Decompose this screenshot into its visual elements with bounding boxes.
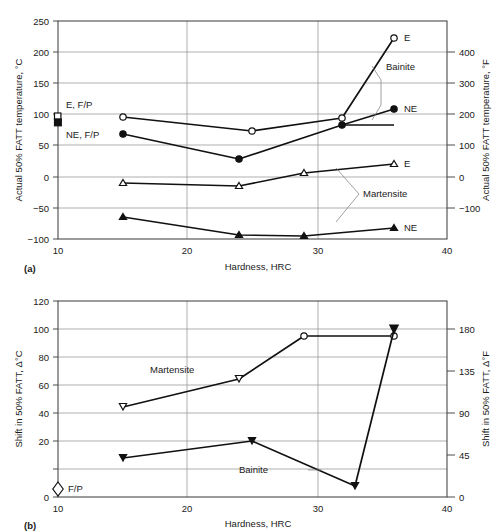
chart-b-x-axis-title: Hardness, HRC [225, 518, 292, 529]
reference-label-fp: F/P [68, 483, 83, 494]
chart-b-y2tick-135: 135 [459, 366, 475, 377]
chart-a-y-axis-title: Actual 50% FATT temperature, °C [13, 58, 24, 201]
chart-a-series-martensite-ne: NE [119, 214, 417, 239]
series-label-martensite-ne: NE [404, 222, 417, 233]
chart-a-left-ticks [53, 21, 58, 239]
chart-a-ytick-0: 0 [44, 172, 49, 183]
reference-label-e-fp: E, F/P [66, 99, 92, 110]
data-point-marker [339, 115, 345, 121]
chart-b-series-bainite: Bainite [119, 325, 398, 489]
series-label-bainite-ne: NE [404, 103, 417, 114]
chart-a-xtick-10: 10 [53, 245, 64, 256]
panel-label-b: (b) [24, 520, 36, 531]
chart-a-y2tick-400: 400 [459, 47, 475, 58]
series-label-bainite-e: E [404, 32, 410, 43]
chart-b-svg: 120 100 80 60 40 20 0 Shift in 50% FATT,… [0, 280, 494, 532]
chart-a-right-ticks [447, 52, 455, 208]
chart-a-y2tick-300: 300 [459, 78, 475, 89]
data-point-marker [301, 333, 307, 339]
data-point-marker [120, 131, 126, 137]
chart-a-ytick-neg50: −50 [33, 203, 49, 214]
chart-a-y2tick-100: 100 [459, 140, 475, 151]
chart-b-y-axis-title: Shift in 50% FATT, Δ°C [13, 350, 24, 447]
chart-b-xtick-40: 40 [442, 503, 453, 514]
chart-b-x-tick-labels: 10 20 30 40 [53, 503, 453, 514]
chart-b-left-tick-labels: 120 100 80 60 40 20 0 [33, 296, 49, 503]
annotation-label-bainite-b: Bainite [239, 464, 268, 475]
chart-a-y2tick-neg100: −100 [459, 203, 480, 214]
chart-a-x-tick-labels: 10 20 30 40 [53, 245, 453, 256]
chart-b-ytick-20: 20 [38, 436, 49, 447]
chart-b-ytick-0: 0 [44, 492, 49, 503]
chart-b-ytick-80: 80 [38, 352, 49, 363]
data-point-marker [391, 35, 397, 41]
chart-b-right-tick-labels: 180 135 90 45 0 [459, 324, 475, 503]
chart-b-ytick-60: 60 [38, 380, 49, 391]
annotation-label-bainite: Bainite [386, 61, 415, 72]
chart-a-series-bainite-ne: NE [120, 103, 417, 162]
chart-a-ytick-250: 250 [33, 16, 49, 27]
chart-b-ytick-40: 40 [38, 408, 49, 419]
annotation-label-martensite: Martensite [363, 188, 407, 199]
chart-a-reference-point-ne-fp: NE, F/P [55, 119, 100, 140]
series-label-martensite-e: E [404, 158, 410, 169]
data-point-marker [119, 214, 126, 220]
reference-label-ne-fp: NE, F/P [66, 129, 99, 140]
chart-b-ytick-120: 120 [33, 296, 49, 307]
chart-a-x-axis-title: Hardness, HRC [225, 261, 292, 272]
chart-panel-a: 250 200 150 100 50 0 −50 −100 Actual 50%… [0, 0, 494, 280]
chart-a-xtick-40: 40 [442, 245, 453, 256]
chart-a-left-tick-labels: 250 200 150 100 50 0 −50 −100 [28, 16, 49, 245]
chart-a-ytick-100: 100 [33, 109, 49, 120]
chart-a-xtick-30: 30 [313, 245, 324, 256]
annotation-label-martensite-b: Martensite [150, 364, 194, 375]
data-point-marker [120, 114, 126, 120]
chart-a-right-tick-labels: 400 300 200 100 0 −100 [459, 47, 480, 214]
data-point-marker [339, 122, 345, 128]
chart-a-y2tick-200: 200 [459, 109, 475, 120]
chart-b-xtick-20: 20 [182, 503, 193, 514]
chart-b-reference-point-fp: F/P [53, 482, 83, 496]
chart-b-xtick-10: 10 [53, 503, 64, 514]
chart-a-xtick-20: 20 [182, 245, 193, 256]
chart-b-series-martensite: Martensite [119, 333, 397, 410]
chart-b-y2tick-0: 0 [459, 492, 464, 503]
chart-a-series-martensite-e: E [119, 158, 410, 189]
chart-a-y2-axis-title: Actual 50% FATT temperature, °F [480, 59, 491, 201]
panel-label-a: (a) [24, 263, 36, 274]
chart-a-ytick-200: 200 [33, 47, 49, 58]
chart-a-ytick-neg100: −100 [28, 234, 49, 245]
chart-b-y2tick-180: 180 [459, 324, 475, 335]
data-point-marker [236, 156, 242, 162]
chart-a-svg: 250 200 150 100 50 0 −50 −100 Actual 50%… [0, 0, 494, 280]
data-point-marker [249, 128, 255, 134]
chart-b-y2-axis-title: Shift in 50% FATT, Δ°F [480, 351, 491, 447]
chart-b-xtick-30: 30 [313, 503, 324, 514]
chart-b-right-ticks [447, 329, 455, 497]
data-point-marker [53, 482, 63, 496]
chart-panel-b: 120 100 80 60 40 20 0 Shift in 50% FATT,… [0, 280, 494, 532]
chart-a-ytick-50: 50 [38, 140, 49, 151]
chart-b-y2tick-90: 90 [459, 408, 470, 419]
chart-b-left-ticks [53, 301, 58, 497]
chart-a-reference-point-e-fp: E, F/P [55, 99, 93, 119]
chart-b-y2tick-45: 45 [459, 450, 470, 461]
chart-b-ytick-100: 100 [33, 324, 49, 335]
chart-a-annotation-martensite: Martensite [336, 168, 407, 222]
chart-a-y2tick-0: 0 [459, 172, 464, 183]
data-point-marker [391, 106, 397, 112]
chart-a-ytick-150: 150 [33, 78, 49, 89]
data-point-marker [55, 119, 62, 126]
